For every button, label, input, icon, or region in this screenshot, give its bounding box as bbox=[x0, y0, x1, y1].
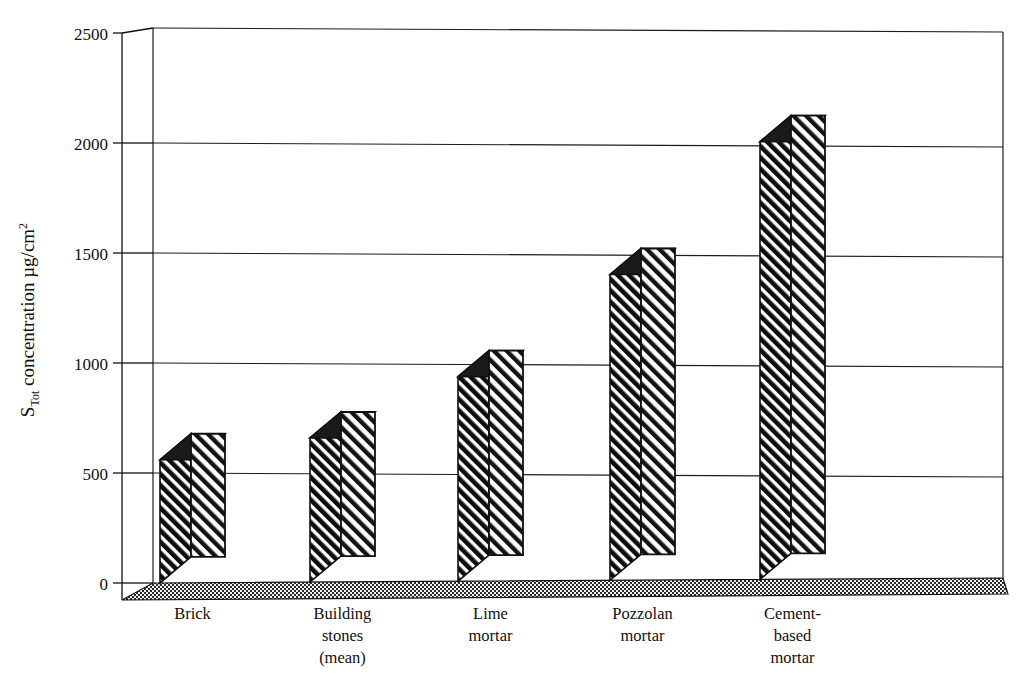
x-axis-label: mortar bbox=[469, 626, 513, 645]
bar bbox=[760, 116, 825, 580]
y-axis bbox=[113, 28, 153, 600]
y-tick-label: 0 bbox=[100, 575, 109, 594]
bar-front-face bbox=[341, 412, 375, 556]
y-tick-label: 1500 bbox=[74, 245, 108, 264]
x-axis-label: Pozzolan bbox=[612, 604, 672, 623]
y-tick-labels: 2500 2000 1500 1000 500 0 bbox=[74, 25, 108, 594]
bar bbox=[458, 351, 523, 582]
y-axis-symbol: S bbox=[17, 407, 38, 418]
bar bbox=[610, 249, 675, 581]
x-axis-labels: BrickBuildingstones(mean)LimemortarPozzo… bbox=[174, 604, 821, 667]
x-axis-label: stones bbox=[322, 626, 363, 645]
y-tick-label: 1000 bbox=[74, 355, 108, 374]
x-axis-label: Brick bbox=[174, 604, 211, 623]
bar bbox=[310, 412, 375, 582]
bar-front-face bbox=[489, 351, 523, 556]
x-axis-label: (mean) bbox=[319, 648, 366, 667]
x-axis-label: mortar bbox=[771, 648, 815, 667]
y-axis-title: STot concentration µg/cm2 bbox=[16, 223, 42, 417]
x-axis-label: Cement- bbox=[764, 604, 821, 623]
y-tick-label: 2500 bbox=[74, 25, 108, 44]
chart-figure: 2500 2000 1500 1000 500 0 STot concentra… bbox=[0, 0, 1031, 682]
bar-side-face bbox=[760, 116, 791, 580]
bar-side-face bbox=[610, 249, 641, 581]
bar-front-face bbox=[191, 434, 225, 557]
svg-text:STot concentration µg/cm2: STot concentration µg/cm2 bbox=[16, 223, 42, 417]
bar-chart-svg: 2500 2000 1500 1000 500 0 STot concentra… bbox=[0, 0, 1031, 682]
x-axis-label: mortar bbox=[621, 626, 665, 645]
y-tick-label: 500 bbox=[83, 465, 109, 484]
y-axis-subscript: Tot bbox=[28, 390, 42, 406]
bar-front-face bbox=[641, 249, 675, 555]
x-axis-label: Lime bbox=[473, 604, 508, 623]
x-axis-label: based bbox=[774, 626, 812, 645]
y-axis-text: concentration µg/cm bbox=[17, 229, 38, 391]
x-axis-label: Building bbox=[314, 604, 372, 623]
y-axis-superscript: 2 bbox=[16, 223, 30, 229]
bar-side-face bbox=[458, 351, 489, 582]
bar-front-face bbox=[791, 116, 825, 554]
plot-back-wall bbox=[153, 28, 1003, 583]
y-tick-label: 2000 bbox=[74, 135, 108, 154]
